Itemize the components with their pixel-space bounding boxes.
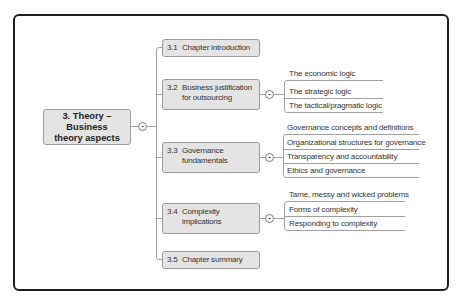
section-number: 3.2 — [167, 83, 180, 93]
topic-leaf[interactable]: Transparency and accountability — [287, 152, 397, 162]
section-3-3-collapse-button[interactable]: - — [265, 153, 274, 162]
section-title: Chapter summary — [182, 255, 243, 264]
section-node-3-4[interactable]: 3.4 Complexity implications — [162, 203, 260, 234]
root-title-line2: theory aspects — [54, 133, 120, 143]
section-node-3-5[interactable]: 3.5 Chapter summary — [162, 251, 260, 269]
section-number: 3.4 — [167, 207, 180, 217]
topic-leaf[interactable]: The tactical/pragmatic logic — [289, 101, 382, 111]
section-title-line2: for outsourcing — [167, 93, 255, 103]
section-3-4-collapse-button[interactable]: - — [265, 214, 274, 223]
topic-leaf[interactable]: Forms of complexity — [289, 205, 358, 215]
section-number: 3.5 — [167, 255, 180, 265]
minus-icon: - — [268, 89, 271, 98]
topic-leaf[interactable]: Organizational structures for governance — [287, 138, 426, 148]
section-title-line2: fundamentals — [167, 156, 255, 166]
section-node-3-2[interactable]: 3.2 Business justification for outsourci… — [162, 79, 260, 110]
section-node-3-3[interactable]: 3.3 Governance fundamentals — [162, 142, 260, 173]
section-3-2-collapse-button[interactable]: - — [265, 90, 274, 99]
section-title: Chapter introduction — [182, 43, 250, 52]
topic-leaf[interactable]: Responding to complexity — [289, 219, 377, 229]
topic-leaf[interactable]: The strategic logic — [289, 87, 351, 97]
section-title-line1: Governance — [182, 146, 224, 155]
section-node-3-1[interactable]: 3.1 Chapter introduction — [162, 39, 260, 57]
root-collapse-button[interactable]: - — [138, 122, 147, 131]
section-title-line2: implications — [167, 217, 255, 227]
section-title-line1: Complexity — [182, 207, 220, 216]
minus-icon: - — [141, 121, 144, 130]
topic-leaf[interactable]: The economic logic — [289, 69, 355, 79]
topic-leaf[interactable]: Governance concepts and definitions — [287, 123, 413, 133]
root-title-line1: 3. Theory – Business — [62, 111, 111, 132]
topic-leaf[interactable]: Ethics and governance — [287, 166, 365, 176]
root-node[interactable]: 3. Theory – Business theory aspects — [43, 109, 131, 145]
topic-leaf[interactable]: Tame, messy and wicked problems — [289, 190, 409, 200]
section-title-line1: Business justification — [182, 83, 252, 92]
minus-icon: - — [268, 152, 271, 161]
section-number: 3.3 — [167, 146, 180, 156]
section-number: 3.1 — [167, 43, 180, 53]
minus-icon: - — [268, 213, 271, 222]
